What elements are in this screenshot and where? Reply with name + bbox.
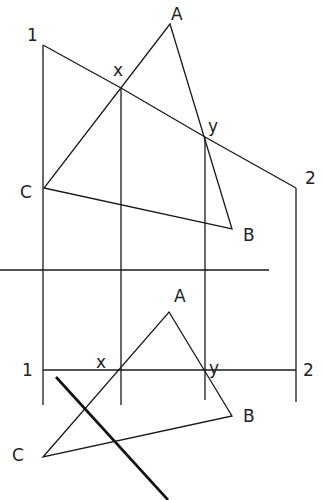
- label-bottom-1: 1: [22, 360, 33, 380]
- label-bottom-2: 2: [303, 360, 314, 380]
- label-top-c: C: [20, 182, 32, 202]
- descriptive-geometry-drawing: 1 A x y 2 C B A 1 x y 2 B C: [0, 0, 324, 500]
- label-bottom-x: x: [96, 352, 106, 372]
- label-top-a: A: [171, 4, 183, 24]
- top-line-1-2: [43, 45, 296, 188]
- label-bottom-b: B: [243, 406, 255, 426]
- label-bottom-a: A: [174, 286, 186, 306]
- top-triangle-abc: [44, 24, 232, 229]
- bottom-triangle-abc: [43, 312, 232, 457]
- label-top-y: y: [208, 116, 218, 136]
- label-top-x: x: [113, 60, 123, 80]
- label-bottom-c: C: [12, 445, 24, 465]
- label-top-2: 2: [305, 168, 316, 188]
- thick-line: [56, 377, 168, 500]
- label-top-b: B: [243, 225, 255, 245]
- label-bottom-y: y: [209, 358, 219, 378]
- label-top-1: 1: [27, 25, 38, 45]
